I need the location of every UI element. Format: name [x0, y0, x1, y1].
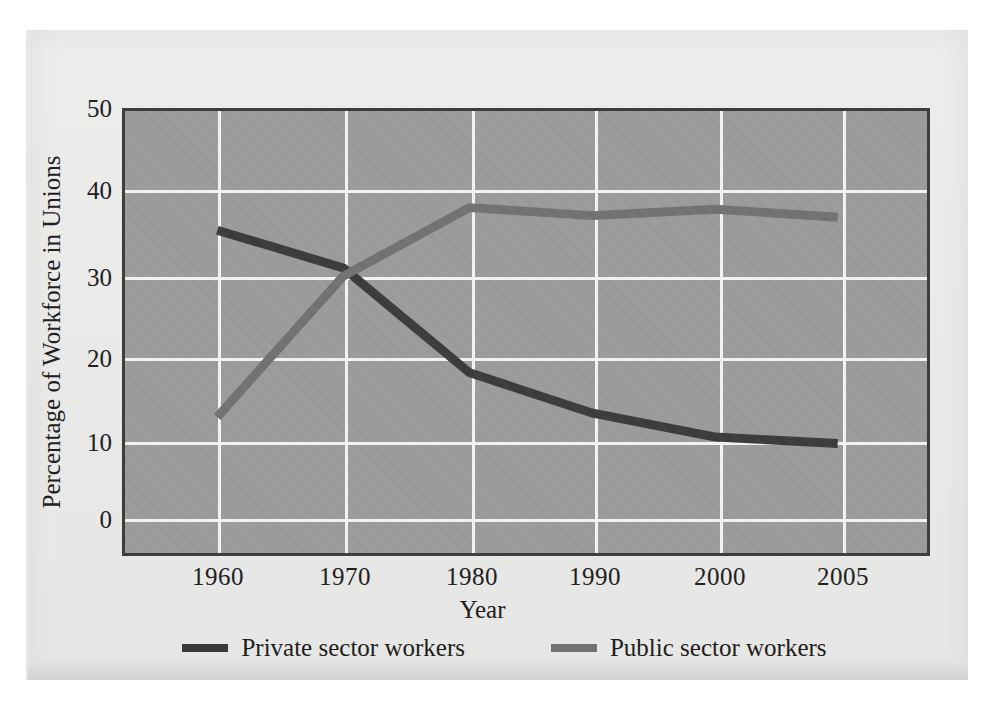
series-line-private-sector-workers: [217, 230, 837, 443]
y-tick-40: 40: [70, 178, 112, 203]
chart-legend: Private sector workers Public sector wor…: [0, 634, 995, 662]
x-tick-1980: 1980: [417, 563, 527, 591]
legend-item-private-sector-workers: Private sector workers: [182, 634, 465, 662]
line-chart-figure: 50 40 30 20 10 0 Percentage of Workforce…: [0, 0, 995, 711]
x-tick-1960: 1960: [163, 563, 273, 591]
x-tick-1990: 1990: [540, 563, 650, 591]
y-axis-title: Percentage of Workforce in Unions: [38, 112, 66, 552]
legend-label-private: Private sector workers: [241, 634, 465, 662]
x-tick-2005: 2005: [788, 563, 898, 591]
legend-swatch-icon-public: [551, 644, 597, 652]
plot-area: [122, 108, 930, 556]
y-tick-30: 30: [70, 265, 112, 290]
y-tick-0: 0: [70, 507, 112, 532]
y-tick-10: 10: [70, 430, 112, 455]
y-tick-20: 20: [70, 346, 112, 371]
series-line-public-sector-workers: [217, 208, 837, 417]
x-tick-2000: 2000: [665, 563, 775, 591]
y-tick-50: 50: [70, 96, 112, 121]
figure-root: 50 40 30 20 10 0 Percentage of Workforce…: [0, 0, 995, 711]
x-axis-title: Year: [459, 596, 505, 624]
series-plot-svg: [125, 111, 927, 553]
legend-label-public: Public sector workers: [610, 634, 827, 662]
legend-swatch-icon-private: [182, 644, 228, 652]
legend-item-public-sector-workers: Public sector workers: [551, 634, 827, 662]
x-axis-title-wrap: Year: [0, 596, 995, 624]
x-tick-1970: 1970: [290, 563, 400, 591]
